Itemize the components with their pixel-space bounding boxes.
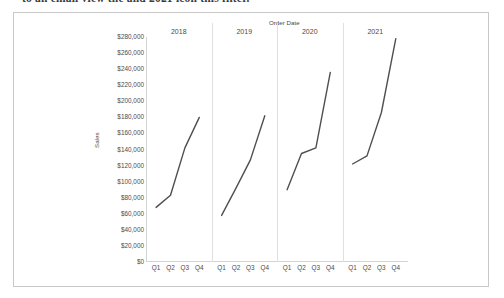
y-axis-tick-label: $20,000 (98, 242, 144, 249)
line-series-2020 (287, 72, 330, 189)
x-axis-tick-2020-Q4: Q4 (321, 264, 339, 271)
y-axis-tick-label: $140,000 (98, 146, 144, 153)
x-axis-tick-2021-Q4: Q4 (387, 264, 405, 271)
panel-header-2019: 2019 (212, 28, 278, 35)
line-series-2021 (353, 39, 396, 164)
clipped-document-line: to an email view the and 2021 icon this … (22, 0, 249, 4)
panel-header-2018: 2018 (146, 28, 212, 35)
x-axis-tick-2018-Q4: Q4 (190, 264, 208, 271)
document-text-strip: to an email view the and 2021 icon this … (0, 0, 504, 11)
y-axis-tick-label: $40,000 (98, 226, 144, 233)
line-series-group (146, 37, 408, 262)
line-series-2019 (222, 116, 265, 216)
x-axis-tick-2019-Q4: Q4 (256, 264, 274, 271)
chart-title: Order Date (269, 19, 300, 26)
panel-header-2021: 2021 (343, 28, 409, 35)
plot-area (146, 37, 408, 262)
y-axis-tick-label: $220,000 (98, 81, 144, 88)
y-axis-tick-label: $160,000 (98, 129, 144, 136)
y-axis-tick-label: $180,000 (98, 113, 144, 120)
y-axis-tick-label: $0 (98, 258, 144, 265)
chart-frame: Order Date 2018201920202021 Sales $280,0… (13, 12, 489, 287)
y-axis-tick-label: $100,000 (98, 178, 144, 185)
panel-header-2020: 2020 (277, 28, 343, 35)
y-axis-tick-labels: $280,000$260,000$240,000$220,000$200,000… (98, 13, 144, 286)
chart-canvas: Order Date 2018201920202021 Sales $280,0… (14, 13, 488, 286)
y-axis-tick-label: $200,000 (98, 97, 144, 104)
y-axis-tick-label: $120,000 (98, 162, 144, 169)
y-axis-tick-label: $260,000 (98, 49, 144, 56)
y-axis-tick-label: $280,000 (98, 33, 144, 40)
line-series-2018 (156, 117, 199, 207)
x-axis-tick-labels: Q1Q2Q3Q4Q1Q2Q3Q4Q1Q2Q3Q4Q1Q2Q3Q4 (146, 264, 408, 278)
y-axis-tick-label: $60,000 (98, 210, 144, 217)
y-axis-tick-label: $240,000 (98, 65, 144, 72)
y-axis-tick-label: $80,000 (98, 194, 144, 201)
